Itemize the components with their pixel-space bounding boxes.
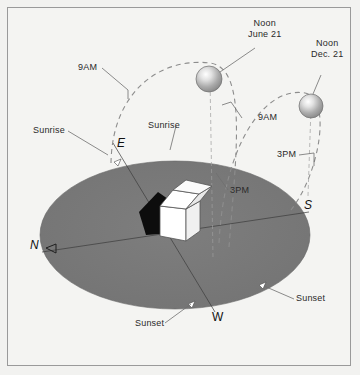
- leader-noon-dec: [313, 75, 321, 94]
- diagram-canvas: Noon June 21 Noon Dec. 21 9AM 9AM 3PM 3P…: [0, 0, 360, 375]
- leader-sunrise-left: [68, 131, 108, 155]
- compass-label-east: E: [117, 136, 125, 150]
- label-noon-dec-21: Noon Dec. 21: [311, 38, 343, 59]
- compass-label-west: W: [212, 310, 223, 324]
- label-sunset-bottom: Sunset: [135, 318, 164, 329]
- label-3pm-dec: 3PM: [277, 149, 296, 160]
- label-9am-june: 9AM: [78, 62, 97, 73]
- leader-3pm-dec: [299, 153, 314, 166]
- leader-sunset-right: [264, 286, 294, 299]
- label-9am-dec: 9AM: [258, 112, 277, 123]
- label-3pm-june: 3PM: [230, 185, 249, 196]
- sun-noon-june-21: [196, 66, 222, 92]
- house-front-wall: [160, 206, 186, 241]
- compass-label-south: S: [304, 198, 312, 212]
- dec-noon-drop-line: [308, 108, 311, 196]
- sun-path-illustration: [0, 0, 360, 375]
- leader-9am-dec: [222, 102, 242, 118]
- sun-noon-dec-21: [299, 94, 323, 118]
- leader-9am-june: [102, 68, 128, 99]
- marker-sunrise-east: [114, 159, 121, 166]
- label-sunrise-mid: Sunrise: [148, 120, 180, 131]
- leader-noon-june: [220, 48, 255, 72]
- label-sunset-right: Sunset: [296, 293, 325, 304]
- label-sunrise-left: Sunrise: [33, 125, 65, 136]
- compass-label-north: N: [30, 238, 39, 252]
- label-noon-june-21: Noon June 21: [248, 18, 281, 39]
